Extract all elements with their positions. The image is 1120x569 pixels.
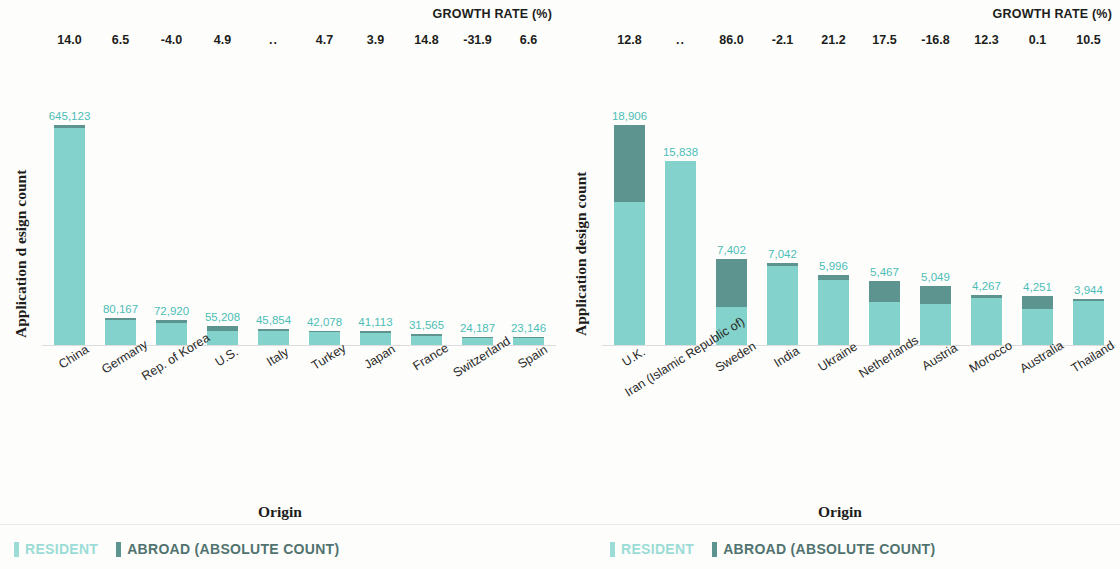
bar-value-label: 80,167 (103, 303, 138, 315)
bar-group[interactable]: 5,467 (859, 125, 910, 345)
bar[interactable] (818, 275, 850, 345)
bar-group[interactable]: 645,123 (44, 125, 95, 345)
bar-group[interactable]: 18,906 (604, 125, 655, 345)
bar-segment-resident[interactable] (207, 331, 239, 345)
bar-group[interactable]: 3,944 (1063, 125, 1114, 345)
bar-value-label: 72,920 (154, 305, 189, 317)
bar[interactable] (665, 161, 697, 345)
bar-segment-resident[interactable] (818, 280, 850, 345)
bar-segment-resident[interactable] (920, 304, 952, 345)
bar-segment-abroad[interactable] (869, 281, 901, 302)
bar-segment-resident[interactable] (1073, 301, 1105, 345)
bar-group[interactable]: 4,251 (1012, 125, 1063, 345)
footer-divider (0, 524, 1120, 525)
bar[interactable] (105, 318, 137, 345)
x-tick: Iran (Islamic Republic of) (655, 347, 706, 497)
growth-rate-value: -16.8 (910, 33, 961, 53)
x-tick: Japan (350, 347, 401, 497)
chart-panel-left: GROWTH RATE (%) 14.06.5-4.04.9..4.73.914… (0, 0, 560, 569)
growth-rate-value: 0.1 (1012, 33, 1063, 53)
bar-segment-resident[interactable] (665, 161, 697, 345)
growth-rate-value: 10.5 (1063, 33, 1114, 53)
x-tick: Austria (910, 347, 961, 497)
bar-value-label: 4,251 (1023, 281, 1052, 293)
bar-segment-resident[interactable] (156, 323, 188, 346)
bar[interactable] (971, 295, 1003, 345)
bar-segment-abroad[interactable] (716, 259, 748, 307)
x-tick: Italy (248, 347, 299, 497)
legend-item-abroad-left: ABROAD (ABSOLUTE COUNT) (116, 541, 339, 557)
bar-segment-resident[interactable] (869, 302, 901, 345)
bar-value-label: 23,146 (511, 322, 546, 334)
x-tick-label: Italy (264, 345, 291, 369)
bar-group[interactable]: 80,167 (95, 125, 146, 345)
bar[interactable] (1073, 299, 1105, 345)
legend-item-resident-left: RESIDENT (14, 541, 98, 557)
bar[interactable] (767, 263, 799, 345)
bar-group[interactable]: 7,402 (706, 125, 757, 345)
bar-group[interactable]: 45,854 (248, 125, 299, 345)
x-tick: Ukraine (808, 347, 859, 497)
x-tick: Spain (503, 347, 554, 497)
bar[interactable] (920, 286, 952, 345)
bar[interactable] (869, 281, 901, 345)
legend-swatch-resident-icon (610, 542, 615, 557)
bar-group[interactable]: 55,208 (197, 125, 248, 345)
growth-rate-value: 21.2 (808, 33, 859, 53)
legend-label-abroad: ABROAD (ABSOLUTE COUNT) (723, 541, 935, 557)
bar-segment-abroad[interactable] (1022, 296, 1054, 309)
y-axis-label-right: Application design count (572, 96, 596, 336)
bar-segment-abroad[interactable] (920, 286, 952, 304)
bar-segment-resident[interactable] (258, 331, 290, 345)
x-tick: Netherlands (859, 347, 910, 497)
bar-segment-resident[interactable] (105, 320, 137, 345)
bar-segment-resident[interactable] (54, 128, 86, 345)
bar-group[interactable]: 41,113 (350, 125, 401, 345)
chart-page: GROWTH RATE (%) 14.06.5-4.04.9..4.73.914… (0, 0, 1120, 569)
bar-group[interactable]: 23,146 (503, 125, 554, 345)
bar-segment-resident[interactable] (614, 202, 646, 345)
bar-group[interactable]: 5,996 (808, 125, 859, 345)
growth-rate-value: 17.5 (859, 33, 910, 53)
x-tick: India (757, 347, 808, 497)
growth-rate-value: 14.8 (401, 33, 452, 53)
bar[interactable] (156, 320, 188, 345)
bar-segment-resident[interactable] (1022, 309, 1054, 345)
bar-value-label: 24,187 (460, 322, 495, 334)
bar[interactable] (258, 329, 290, 345)
x-axis-line-left (42, 345, 556, 346)
bar[interactable] (1022, 296, 1054, 345)
bar-value-label: 5,049 (921, 271, 950, 283)
bar-group[interactable]: 5,049 (910, 125, 961, 345)
bar-segment-abroad[interactable] (614, 125, 646, 202)
x-tick: Switzerland (452, 347, 503, 497)
bar-group[interactable]: 7,042 (757, 125, 808, 345)
bar-group[interactable]: 15,838 (655, 125, 706, 345)
bar-value-label: 45,854 (256, 314, 291, 326)
bar-group[interactable]: 72,920 (146, 125, 197, 345)
y-axis-label-left: Application d esign count (12, 98, 36, 338)
growth-rate-value: .. (248, 33, 299, 53)
bar-group[interactable]: 42,078 (299, 125, 350, 345)
bar-group[interactable]: 24,187 (452, 125, 503, 345)
growth-rate-value: 4.9 (197, 33, 248, 53)
growth-rate-value: 14.0 (44, 33, 95, 53)
growth-rate-value: 6.6 (503, 33, 554, 53)
bar-group[interactable]: 31,565 (401, 125, 452, 345)
growth-rate-value: 12.8 (604, 33, 655, 53)
growth-rate-header-right: GROWTH RATE (%) (993, 7, 1112, 21)
bar[interactable] (614, 125, 646, 345)
growth-rate-header-left: GROWTH RATE (%) (433, 7, 552, 21)
bar[interactable] (54, 125, 86, 345)
bar-segment-resident[interactable] (767, 266, 799, 345)
bar-value-label: 7,402 (717, 244, 746, 256)
legend-label-abroad: ABROAD (ABSOLUTE COUNT) (127, 541, 339, 557)
legend-swatch-abroad-icon (116, 542, 121, 557)
bar-group[interactable]: 4,267 (961, 125, 1012, 345)
bar-value-label: 5,996 (819, 260, 848, 272)
x-tick: Rep. of Korea (146, 347, 197, 497)
bar-segment-resident[interactable] (971, 298, 1003, 345)
legend-left: RESIDENT ABROAD (ABSOLUTE COUNT) (14, 541, 339, 557)
x-tick: Morocco (961, 347, 1012, 497)
x-tick: U.K. (604, 347, 655, 497)
